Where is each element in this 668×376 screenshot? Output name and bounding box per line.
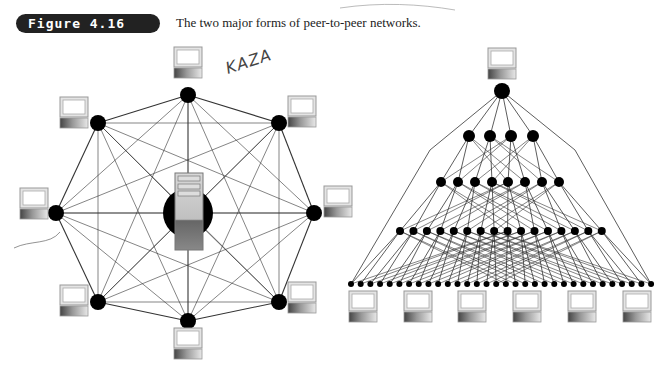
tree-node bbox=[503, 177, 513, 187]
tree-node bbox=[474, 281, 480, 287]
tree-node bbox=[436, 177, 446, 187]
tree-node bbox=[561, 281, 567, 287]
computer-icon bbox=[324, 186, 352, 217]
leaf-computer-icon bbox=[404, 291, 432, 322]
tree-node bbox=[453, 177, 463, 187]
leaf-computer-icon bbox=[458, 291, 486, 322]
tree-node bbox=[537, 177, 547, 187]
tree-node bbox=[584, 227, 592, 235]
tree-node bbox=[484, 130, 496, 142]
tree-node bbox=[396, 227, 404, 235]
tree-node bbox=[454, 281, 460, 287]
tree-node bbox=[436, 227, 444, 235]
peer-node bbox=[306, 205, 322, 221]
peer-node bbox=[180, 87, 196, 103]
tree-node bbox=[598, 227, 606, 235]
tree-node bbox=[609, 281, 615, 287]
tree-node bbox=[484, 281, 490, 287]
leaf-computer-icon bbox=[568, 291, 596, 322]
tree-node bbox=[580, 281, 586, 287]
peer-node bbox=[90, 294, 106, 310]
tree-connections bbox=[351, 91, 651, 284]
tree-node bbox=[638, 281, 644, 287]
tree-node bbox=[367, 281, 373, 287]
tree-node bbox=[503, 281, 509, 287]
computer-icon bbox=[60, 97, 88, 128]
computer-icon bbox=[174, 328, 202, 359]
computer-icon bbox=[60, 285, 88, 316]
tree-node bbox=[544, 227, 552, 235]
tree-node bbox=[406, 281, 412, 287]
tree-node bbox=[557, 227, 565, 235]
tree-node bbox=[505, 130, 517, 142]
tree-node bbox=[513, 281, 519, 287]
tree-node bbox=[554, 177, 564, 187]
tree-node bbox=[423, 227, 431, 235]
leaf-computer-icon bbox=[513, 291, 541, 322]
tree-node bbox=[358, 281, 364, 287]
tree-node bbox=[527, 130, 539, 142]
central-server bbox=[163, 173, 213, 250]
computer-icon bbox=[20, 188, 48, 219]
tree-node bbox=[493, 281, 499, 287]
tree-node bbox=[517, 227, 525, 235]
peer-node bbox=[271, 115, 287, 131]
tree-node bbox=[571, 227, 579, 235]
tree-node bbox=[648, 281, 654, 287]
tree-node bbox=[377, 281, 383, 287]
network-diagrams bbox=[0, 0, 668, 376]
tree-node bbox=[450, 227, 458, 235]
tree-node bbox=[522, 281, 528, 287]
tree-node bbox=[435, 281, 441, 287]
tree-node bbox=[520, 177, 530, 187]
peer-node bbox=[48, 205, 64, 221]
tree-node bbox=[531, 227, 539, 235]
peer-node bbox=[180, 313, 196, 329]
tree-node bbox=[387, 281, 393, 287]
computer-icon bbox=[288, 96, 316, 127]
tree-node bbox=[542, 281, 548, 287]
peer-node bbox=[90, 115, 106, 131]
tree-node bbox=[504, 227, 512, 235]
tree-node bbox=[629, 281, 635, 287]
peer-node bbox=[271, 294, 287, 310]
tree-node bbox=[551, 281, 557, 287]
tree-node bbox=[464, 281, 470, 287]
leaf-computer-icon bbox=[623, 291, 651, 322]
root-computer-icon bbox=[488, 48, 516, 79]
handwritten-mark bbox=[14, 232, 60, 248]
computer-icon bbox=[174, 47, 202, 78]
handwritten-mark bbox=[340, 4, 455, 10]
tree-node bbox=[494, 83, 510, 99]
tree-node bbox=[487, 177, 497, 187]
tree-node bbox=[590, 281, 596, 287]
tree-node bbox=[490, 227, 498, 235]
tree-node bbox=[416, 281, 422, 287]
tree-node bbox=[532, 281, 538, 287]
tree-node bbox=[619, 281, 625, 287]
computer-icon bbox=[288, 282, 316, 313]
leaf-computer-icon bbox=[349, 291, 377, 322]
tree-node bbox=[477, 227, 485, 235]
tree-node bbox=[470, 177, 480, 187]
tree-node bbox=[571, 281, 577, 287]
tree-node bbox=[425, 281, 431, 287]
tree-node bbox=[463, 227, 471, 235]
tree-node bbox=[445, 281, 451, 287]
tree-node bbox=[600, 281, 606, 287]
tree-node bbox=[463, 130, 475, 142]
tree-node bbox=[348, 281, 354, 287]
tree-node bbox=[409, 227, 417, 235]
tree-node bbox=[396, 281, 402, 287]
